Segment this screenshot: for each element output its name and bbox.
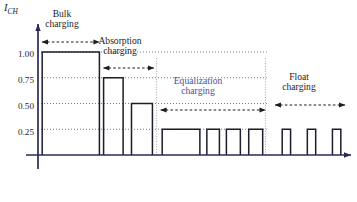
- annotation-equalization-line2: charging: [152, 86, 244, 96]
- axes: [26, 24, 351, 169]
- annotation-equalization: Equalization charging: [152, 76, 244, 96]
- y-tick-label-3: 0.50: [2, 102, 34, 112]
- annotation-absorption-line2: charging: [78, 46, 162, 56]
- y-axis-label: ICH: [4, 2, 18, 16]
- annotation-bulk: Bulk charging: [28, 9, 96, 29]
- annotation-float: Float charging: [258, 72, 340, 92]
- charging-profile-figure: ICH 1.00 0.75 0.50 0.25 Bulk charging Ab…: [0, 0, 357, 202]
- chart-canvas: [0, 0, 357, 202]
- annotation-float-line2: charging: [258, 82, 340, 92]
- annotation-absorption: Absorption charging: [78, 36, 162, 56]
- y-tick-label-2: 0.75: [2, 76, 34, 86]
- y-axis-label-sub: CH: [8, 7, 18, 16]
- y-tick-label-1: 1.00: [2, 50, 34, 60]
- annotation-bulk-line2: charging: [28, 19, 96, 29]
- y-tick-label-4: 0.25: [2, 128, 34, 138]
